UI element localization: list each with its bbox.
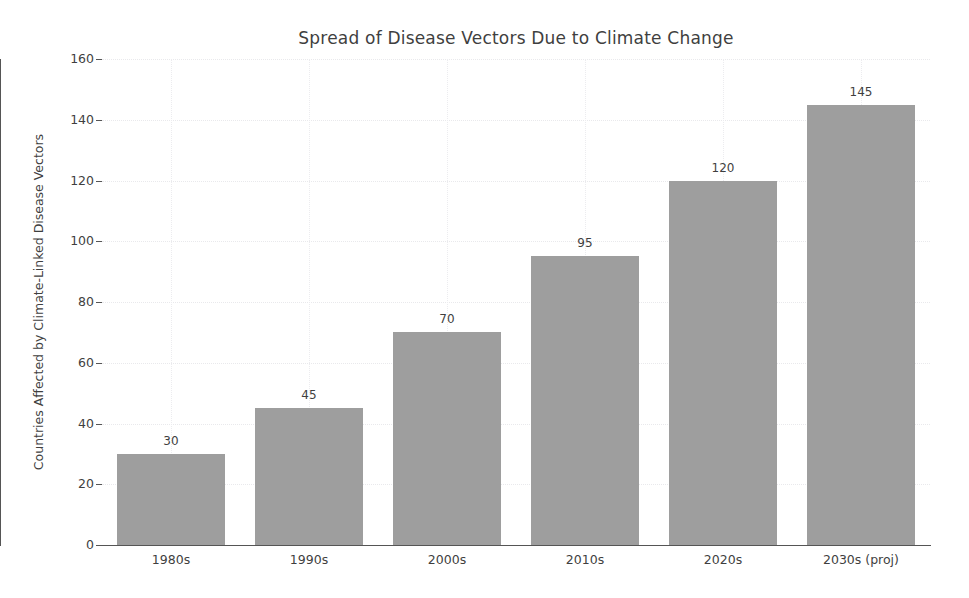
gridline-horizontal: [102, 59, 930, 60]
y-tick-label: 0: [54, 539, 94, 552]
bar: [255, 408, 363, 545]
gridline-horizontal: [102, 181, 930, 182]
x-tick-label: 1980s: [101, 554, 241, 567]
bar-value-label: 95: [545, 237, 625, 249]
chart-title: Spread of Disease Vectors Due to Climate…: [102, 28, 930, 48]
chart-figure: Spread of Disease Vectors Due to Climate…: [0, 0, 969, 598]
bar-value-label: 145: [821, 86, 901, 98]
y-tick-label: 100: [54, 235, 94, 248]
y-tick-label: 40: [54, 418, 94, 431]
y-tick-mark: [96, 545, 102, 546]
gridline-horizontal: [102, 302, 930, 303]
bar: [807, 105, 915, 545]
bar-value-label: 120: [683, 162, 763, 174]
bar-value-label: 70: [407, 313, 487, 325]
bar: [117, 454, 225, 545]
y-tick-label: 80: [54, 296, 94, 309]
plot-area: [102, 59, 930, 545]
gridline-horizontal: [102, 424, 930, 425]
bar-value-label: 45: [269, 389, 349, 401]
bar: [669, 181, 777, 546]
gridline-horizontal: [102, 241, 930, 242]
x-tick-label: 2010s: [515, 554, 655, 567]
y-tick-label: 120: [54, 175, 94, 188]
gridline-horizontal: [102, 120, 930, 121]
gridline-horizontal: [102, 363, 930, 364]
y-axis-spine: [0, 59, 1, 546]
y-tick-label: 160: [54, 53, 94, 66]
bar: [531, 256, 639, 545]
x-axis-spine: [102, 545, 931, 546]
y-tick-label: 60: [54, 357, 94, 370]
bar: [393, 332, 501, 545]
x-tick-label: 1990s: [239, 554, 379, 567]
y-tick-label: 20: [54, 478, 94, 491]
y-axis-label: Countries Affected by Climate-Linked Dis…: [26, 59, 52, 545]
x-tick-label: 2030s (proj): [791, 554, 931, 567]
x-tick-label: 2020s: [653, 554, 793, 567]
x-tick-label: 2000s: [377, 554, 517, 567]
gridline-horizontal: [102, 484, 930, 485]
bar-value-label: 30: [131, 435, 211, 447]
y-tick-label: 140: [54, 114, 94, 127]
